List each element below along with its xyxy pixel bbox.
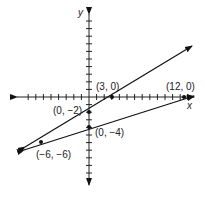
label-3-0: (3, 0) [96, 82, 119, 92]
y-axis-label: y [78, 8, 83, 18]
graph-svg [0, 0, 205, 197]
coordinate-plane: y x (3, 0) (12, 0) (0, −2) (0, −4) (−6, … [0, 0, 205, 197]
label-12-0: (12, 0) [166, 82, 195, 92]
point-3-0 [110, 95, 114, 99]
point-0-neg4 [87, 125, 91, 129]
x-axis-label: x [187, 101, 192, 111]
line-2 [24, 96, 194, 150]
label-0-neg4: (0, −4) [95, 128, 124, 138]
point-12-0 [182, 95, 186, 99]
point-neg6-neg6 [39, 140, 43, 144]
label-neg6-neg6: (−6, −6) [36, 150, 71, 160]
label-0-neg2: (0, −2) [53, 106, 82, 116]
point-0-neg2 [87, 110, 91, 114]
